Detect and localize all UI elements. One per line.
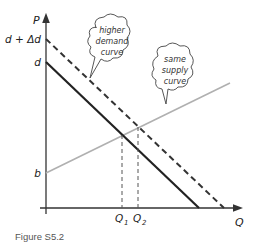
tick-q2: Q 2 bbox=[133, 212, 147, 227]
x-axis-label: Q bbox=[235, 216, 244, 229]
svg-text:1: 1 bbox=[124, 219, 128, 227]
svg-text:curve: curve bbox=[101, 48, 123, 57]
figure-caption: Figure S5.2 bbox=[15, 231, 64, 242]
svg-text:demand: demand bbox=[96, 37, 130, 46]
svg-text:supply: supply bbox=[162, 66, 189, 75]
tick-d: d bbox=[34, 56, 41, 68]
y-axis-label: P bbox=[33, 14, 40, 27]
callout-same-supply: same supply curve bbox=[152, 43, 193, 104]
tick-q1: Q 1 bbox=[115, 212, 128, 227]
svg-text:same: same bbox=[164, 55, 186, 64]
svg-text:Q: Q bbox=[133, 212, 141, 224]
tick-d-plus-delta-d: d + Δd bbox=[5, 33, 41, 45]
tick-b: b bbox=[34, 167, 41, 179]
callout-higher-demand: higher demand curve bbox=[88, 14, 130, 78]
svg-text:Q: Q bbox=[115, 212, 123, 224]
higher-demand-curve bbox=[46, 39, 224, 208]
supply-demand-diagram: P Q d + Δd d b Q 1 Q 2 higher demand cur… bbox=[0, 0, 256, 246]
svg-text:2: 2 bbox=[142, 219, 147, 227]
svg-text:curve: curve bbox=[164, 77, 186, 86]
svg-text:higher: higher bbox=[99, 26, 125, 35]
